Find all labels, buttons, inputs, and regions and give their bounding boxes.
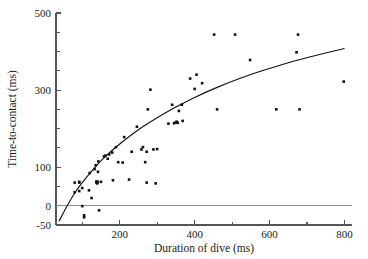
data-point [121, 161, 124, 164]
data-point [115, 146, 118, 149]
data-point [295, 51, 298, 54]
data-point [97, 171, 100, 174]
data-point [213, 33, 216, 36]
x-tick-label: 400 [186, 228, 203, 240]
data-point [108, 153, 111, 156]
x-tick-label: 600 [261, 228, 278, 240]
data-point [88, 189, 91, 192]
x-tick-marks [82, 220, 344, 225]
data-point [123, 136, 126, 139]
data-point [73, 181, 76, 184]
data-point [111, 151, 114, 154]
data-point [88, 172, 91, 175]
chart-canvas: -500100300500 200400600800 Duration of d… [0, 0, 368, 259]
data-point [149, 88, 152, 91]
y-axis-title: Time-to-contact (ms) [6, 70, 19, 168]
data-point [171, 103, 174, 106]
data-point [81, 205, 84, 208]
data-point [147, 108, 150, 111]
x-tick-label: 800 [336, 228, 353, 240]
data-point [342, 80, 345, 83]
x-tick-labels: 200400600800 [111, 228, 353, 240]
data-point [275, 108, 278, 111]
x-axis-title: Duration of dive (ms) [154, 242, 254, 255]
scatter-points-group [73, 33, 345, 218]
y-tick-label: 0 [46, 200, 52, 212]
data-point [112, 179, 115, 182]
data-point [297, 33, 300, 36]
data-point [167, 122, 170, 125]
data-point [73, 191, 76, 194]
y-tick-label: 500 [35, 7, 52, 19]
y-tick-label: 100 [35, 161, 52, 173]
data-point [176, 122, 179, 125]
scatter-plot-figure: -500100300500 200400600800 Duration of d… [0, 0, 368, 259]
data-point [234, 33, 237, 36]
y-tick-label: 300 [35, 84, 52, 96]
fitted-trend-curve [59, 48, 345, 221]
data-point [78, 190, 81, 193]
data-point [178, 110, 181, 113]
y-tick-labels: -500100300500 [35, 7, 52, 231]
data-point [130, 150, 133, 153]
data-point [97, 160, 100, 163]
data-point [100, 181, 103, 184]
data-point [93, 168, 96, 171]
data-point [193, 88, 196, 91]
data-point [142, 146, 145, 149]
data-point [249, 59, 252, 62]
data-point [90, 197, 93, 200]
axes-group [56, 13, 352, 225]
data-point [298, 108, 301, 111]
data-point [117, 161, 120, 164]
data-point [145, 181, 148, 184]
data-point [136, 125, 139, 128]
data-point [156, 148, 159, 151]
data-point [94, 164, 97, 167]
data-point [145, 150, 148, 153]
data-point [154, 182, 157, 185]
data-point [144, 161, 147, 164]
data-point [106, 157, 109, 160]
data-point [83, 216, 86, 219]
data-point [140, 148, 143, 151]
y-tick-marks [56, 13, 61, 225]
data-point [189, 77, 192, 80]
data-point [96, 181, 99, 184]
data-point [181, 120, 184, 123]
data-point [201, 82, 204, 85]
data-point [152, 148, 155, 151]
data-point [104, 154, 107, 157]
data-point [98, 209, 101, 212]
data-point [195, 73, 198, 76]
data-point [216, 108, 219, 111]
data-point [128, 178, 131, 181]
x-tick-label: 200 [111, 228, 128, 240]
y-tick-label: -50 [36, 219, 51, 231]
data-point [81, 187, 84, 190]
data-point [78, 181, 81, 184]
data-point [181, 103, 184, 106]
